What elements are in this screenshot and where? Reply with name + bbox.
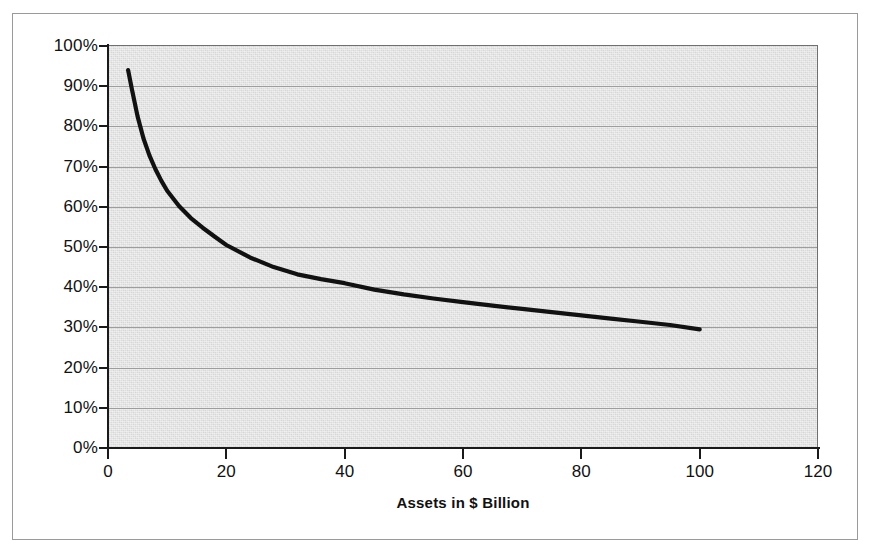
y-tick-label: 70% [63,157,98,177]
x-tick-label: 60 [454,462,473,482]
y-tick-mark [99,286,108,288]
y-tick-mark [99,206,108,208]
y-tick-mark [99,326,108,328]
x-tick-label: 80 [572,462,591,482]
y-tick-mark [99,407,108,409]
x-axis-title: Assets in $ Billion [108,494,818,511]
y-tick-label: 80% [63,116,98,136]
data-series-line [108,46,818,448]
y-tick-label: 30% [63,317,98,337]
x-tick-mark [580,449,582,459]
x-tick-mark [817,449,819,459]
y-tick-mark [99,246,108,248]
x-tick-label: 40 [335,462,354,482]
y-tick-mark [99,85,108,87]
x-tick-label: 0 [103,462,112,482]
y-tick-mark [99,166,108,168]
x-tick-mark [225,449,227,459]
y-tick-label: 10% [63,398,98,418]
y-tick-label: 60% [63,197,98,217]
x-tick-mark [107,449,109,459]
y-tick-label: 90% [63,76,98,96]
y-tick-label: 50% [63,237,98,257]
x-tick-label: 100 [685,462,713,482]
x-tick-mark [699,449,701,459]
y-tick-mark [99,45,108,47]
x-axis-tick-labels: 020406080100120 [0,449,870,489]
x-tick-label: 120 [804,462,832,482]
y-tick-mark [99,367,108,369]
x-tick-mark [344,449,346,459]
y-tick-label: 100% [54,36,98,56]
y-tick-label: 40% [63,277,98,297]
y-tick-mark [99,447,108,449]
chart-figure: 0%10%20%30%40%50%60%70%80%90%100% 020406… [0,0,870,555]
x-tick-label: 20 [217,462,236,482]
y-tick-label: 20% [63,358,98,378]
x-tick-mark [462,449,464,459]
y-tick-mark [99,125,108,127]
